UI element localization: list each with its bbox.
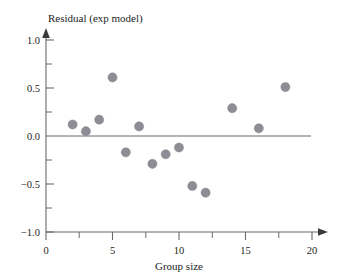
x-tick-label-0: 0	[43, 245, 48, 256]
data-point	[254, 124, 263, 133]
scatter-plot-canvas: 1.0 0.5 0.0 −0.5 −1.0 0 5 10 15 20 Resid…	[0, 0, 341, 273]
y-tick-label-neg1.0: −1.0	[21, 227, 40, 238]
x-axis-major-ticks	[46, 232, 312, 240]
y-axis-arrowhead	[42, 28, 50, 38]
x-tick-label-20: 20	[307, 245, 318, 256]
data-point	[148, 159, 157, 168]
data-point	[108, 73, 117, 82]
data-point	[81, 127, 90, 136]
y-axis-title: Residual (exp model)	[48, 12, 143, 25]
data-point	[135, 122, 144, 131]
data-point	[188, 181, 197, 190]
data-point	[228, 104, 237, 113]
x-tick-label-10: 10	[174, 245, 185, 256]
x-axis-arrowhead	[318, 228, 328, 236]
y-tick-label-neg0.5: −0.5	[21, 179, 40, 190]
x-axis-title: Group size	[155, 260, 203, 272]
data-point	[281, 82, 290, 91]
data-point	[161, 150, 170, 159]
y-tick-label-1.0: 1.0	[27, 35, 40, 46]
data-points-layer	[68, 73, 290, 197]
data-point	[68, 120, 77, 129]
y-tick-label-0.0: 0.0	[27, 131, 40, 142]
y-tick-label-0.5: 0.5	[27, 83, 40, 94]
x-tick-label-15: 15	[240, 245, 251, 256]
x-tick-label-5: 5	[110, 245, 115, 256]
residual-scatter-figure: 1.0 0.5 0.0 −0.5 −1.0 0 5 10 15 20 Resid…	[0, 0, 341, 273]
data-point	[174, 143, 183, 152]
data-point	[95, 115, 104, 124]
data-point	[201, 188, 210, 197]
data-point	[121, 148, 130, 157]
